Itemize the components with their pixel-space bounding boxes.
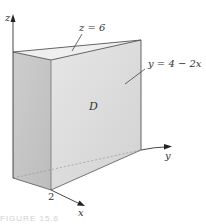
left-face xyxy=(13,52,51,190)
y-axis xyxy=(141,147,166,150)
x-axis-label: x xyxy=(78,208,84,218)
diagram-canvas xyxy=(0,0,206,224)
z-axis-arrow-icon xyxy=(11,14,16,22)
x-axis-arrow-icon xyxy=(77,201,85,207)
y-axis-arrow-icon xyxy=(164,144,172,150)
region-label: D xyxy=(89,101,98,112)
z-axis-label: z xyxy=(5,13,10,23)
solid-region-diagram: z x y z = 6 y = 4 − 2x D 2 FIGURE 15.6 xyxy=(0,0,206,224)
top-plane-label: z = 6 xyxy=(79,23,105,33)
y-axis-label: y xyxy=(165,151,171,161)
x-intercept-label: 2 xyxy=(48,192,54,202)
slanted-face xyxy=(51,40,141,190)
figure-caption: FIGURE 15.6 xyxy=(0,214,59,223)
slanted-plane-label: y = 4 − 2x xyxy=(148,59,202,69)
x-axis xyxy=(51,190,80,204)
